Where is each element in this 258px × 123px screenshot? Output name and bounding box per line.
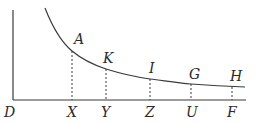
hyperbola-diagram: AXKYIZGUHF D bbox=[0, 0, 258, 123]
curve-point-label: A bbox=[72, 31, 84, 47]
curve-point-label: I bbox=[148, 60, 155, 76]
base-point-label: U bbox=[186, 104, 199, 120]
curve-point-label: G bbox=[189, 66, 200, 82]
base-point-label: Y bbox=[101, 104, 112, 120]
base-point-label: X bbox=[66, 104, 78, 120]
ordinates-group: AXKYIZGUHF bbox=[66, 31, 243, 120]
base-point-label: F bbox=[226, 104, 238, 120]
base-point-label: Z bbox=[144, 104, 155, 120]
curve-point-label: H bbox=[229, 68, 243, 84]
origin-label: D bbox=[3, 104, 15, 120]
curve-point-label: K bbox=[102, 50, 115, 66]
hyperbola-curve bbox=[45, 8, 245, 87]
